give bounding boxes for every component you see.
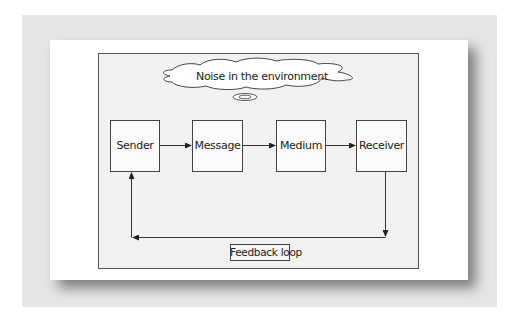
node-receiver: Receiver bbox=[356, 139, 407, 152]
node-sender: Sender bbox=[110, 139, 160, 152]
diagram-canvas bbox=[0, 0, 519, 317]
noise-label: Noise in the environment bbox=[196, 70, 326, 83]
feedback-loop-label: Feedback loop bbox=[230, 246, 290, 258]
node-message: Message bbox=[192, 139, 243, 152]
node-medium: Medium bbox=[276, 139, 326, 152]
